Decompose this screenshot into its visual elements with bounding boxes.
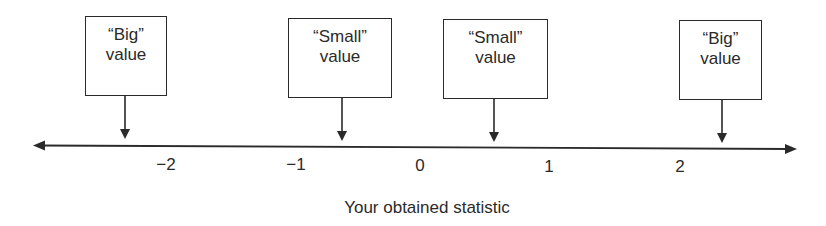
big-value-box-right: “Big” value (679, 20, 762, 100)
tick-label-0: 0 (415, 156, 424, 176)
tick-label-1: 1 (544, 157, 553, 177)
pointer-arrow-2 (337, 98, 347, 141)
down-arrowhead-icon (717, 133, 727, 143)
down-arrowhead-icon (489, 132, 499, 142)
down-arrowhead-icon (337, 131, 347, 141)
pointer-arrow-3 (489, 99, 499, 142)
box-label-line2: value (700, 49, 741, 69)
down-arrowhead-icon (120, 129, 130, 139)
box-label-line1: “Big” (108, 25, 144, 45)
statistic-number-line-diagram: “Big” value “Small” value “Small” value … (0, 0, 826, 226)
big-value-box-left: “Big” value (85, 16, 167, 96)
tick-label-minus-2: −2 (156, 155, 175, 175)
axis-title: Your obtained statistic (344, 198, 510, 218)
right-arrowhead-icon (785, 144, 797, 154)
number-line (40, 146, 790, 150)
left-arrowhead-icon (33, 141, 45, 151)
small-value-box-right: “Small” value (443, 19, 548, 99)
box-label-line2: value (475, 48, 516, 68)
box-label-line1: “Small” (313, 27, 367, 47)
box-label-line1: “Small” (469, 28, 523, 48)
box-label-line1: “Big” (703, 29, 739, 49)
box-label-line2: value (106, 45, 147, 65)
box-label-line2: value (320, 47, 361, 67)
tick-label-minus-1: −1 (286, 155, 305, 175)
pointer-arrow-4 (717, 100, 727, 143)
small-value-box-left: “Small” value (288, 18, 392, 98)
pointer-arrow-1 (120, 96, 130, 139)
tick-label-2: 2 (675, 157, 684, 177)
